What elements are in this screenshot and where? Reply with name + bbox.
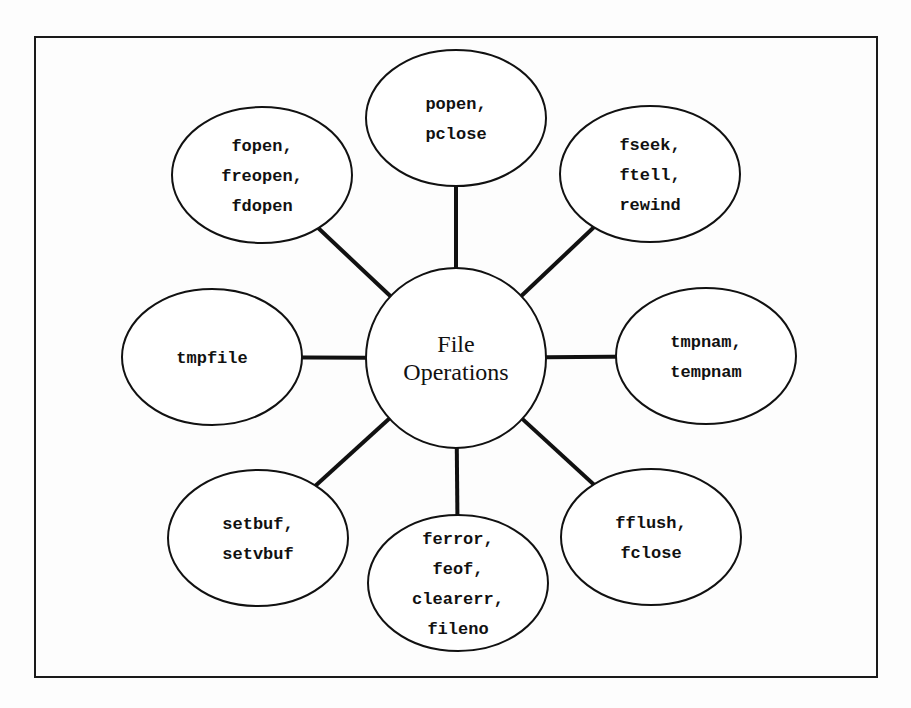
node-fflush: fflush,fclose [561,469,741,605]
node-label-line: setvbuf [222,545,293,564]
node-label-line: clearerr, [412,590,504,609]
node-ellipse [561,469,741,605]
node-label-line: fclose [620,544,681,563]
node-label-line: pclose [425,125,486,144]
file-operations-diagram: popen,pclosefseek,ftell,rewindtmpnam,tem… [0,0,911,708]
node-ferror: ferror,feof,clearerr,fileno [368,515,548,651]
node-label-line: fdopen [231,197,292,216]
node-label-line: setbuf, [222,515,293,534]
node-label-line: fseek, [619,136,680,155]
node-label-line: feof, [432,560,483,579]
center-label-line: Operations [403,359,508,385]
node-fseek: fseek,ftell,rewind [560,106,740,242]
node-ellipse [168,470,348,606]
node-label-line: popen, [425,95,486,114]
node-popen: popen,pclose [366,50,546,186]
node-label-line: tmpnam, [670,333,741,352]
center-circle [366,268,546,448]
node-label-line: freopen, [221,167,303,186]
node-tmpnam: tmpnam,tempnam [616,288,796,424]
node-label-line: tempnam [670,363,741,382]
center-node: File Operations [366,268,546,448]
node-label-line: fopen, [231,137,292,156]
center-label-line: File [437,331,474,357]
node-fopen: fopen,freopen,fdopen [172,107,352,243]
node-label-line: fflush, [615,514,686,533]
node-label-line: ferror, [422,530,493,549]
node-label-line: fileno [427,620,488,639]
node-label-line: rewind [619,196,680,215]
node-tmpfile: tmpfile [122,289,302,425]
node-label-line: tmpfile [176,349,247,368]
node-ellipse [616,288,796,424]
node-ellipse [366,50,546,186]
node-label-line: ftell, [619,166,680,185]
node-setbuf: setbuf,setvbuf [168,470,348,606]
